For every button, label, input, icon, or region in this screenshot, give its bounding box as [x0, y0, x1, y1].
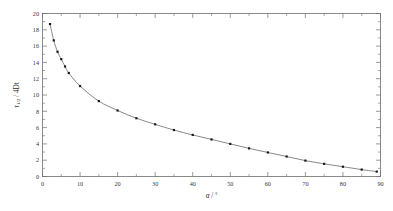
y-tick-label: 6: [36, 124, 39, 131]
data-point-marker: [117, 109, 119, 111]
y-tick-label: 4: [36, 140, 39, 147]
data-point-marker: [98, 100, 100, 102]
data-point-marker: [60, 58, 62, 60]
data-point-marker: [267, 151, 269, 153]
x-tick-label: 60: [265, 180, 271, 187]
data-point-marker: [64, 65, 66, 67]
y-tick-label: 2: [36, 156, 39, 163]
y-tick-label: 0: [36, 173, 39, 180]
data-point-marker: [56, 51, 58, 53]
y-tick-label: 8: [36, 108, 39, 115]
data-point-marker: [79, 85, 81, 87]
data-point-marker: [342, 166, 344, 168]
x-tick-label: 30: [152, 180, 158, 187]
data-point-marker: [229, 143, 231, 145]
figure-background: [0, 0, 393, 211]
x-tick-label: 50: [227, 180, 233, 187]
data-point-marker: [154, 123, 156, 125]
data-point-marker: [68, 72, 70, 74]
y-tick-label: 10: [33, 91, 39, 98]
y-tick-label: 14: [33, 59, 39, 66]
data-point-marker: [192, 134, 194, 136]
data-point-marker: [49, 23, 51, 25]
y-tick-label: 16: [33, 42, 39, 49]
x-tick-label: 20: [115, 180, 121, 187]
x-tick-label: 0: [41, 180, 44, 187]
chart-figure: 0102030405060708090 02468101214161820 α …: [0, 0, 393, 211]
data-point-marker: [304, 160, 306, 162]
y-tick-label: 18: [33, 26, 39, 33]
data-point-marker: [376, 171, 378, 173]
data-point-marker: [53, 39, 55, 41]
data-point-marker: [248, 147, 250, 149]
x-tick-label: 10: [77, 180, 83, 187]
x-tick-label: 80: [340, 180, 346, 187]
x-tick-label: 70: [302, 180, 308, 187]
x-tick-label: 90: [377, 180, 383, 187]
data-point-marker: [135, 117, 137, 119]
data-point-marker: [173, 129, 175, 131]
data-point-marker: [286, 155, 288, 157]
y-tick-label: 20: [33, 10, 39, 17]
x-tick-label: 40: [190, 180, 196, 187]
chart-svg: 0102030405060708090 02468101214161820 α …: [0, 0, 393, 211]
data-point-marker: [323, 163, 325, 165]
y-tick-label: 12: [33, 75, 39, 82]
data-point-marker: [210, 138, 212, 140]
data-point-marker: [361, 168, 363, 170]
